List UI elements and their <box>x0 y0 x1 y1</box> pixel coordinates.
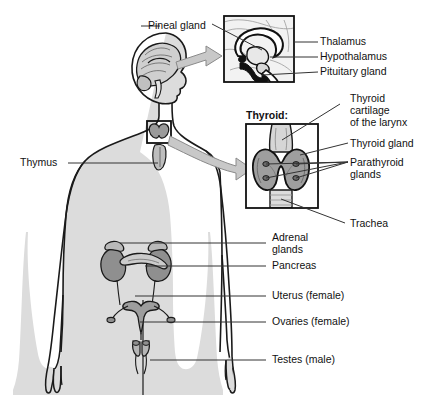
label-parathyroid-line2: glands <box>350 169 381 181</box>
label-thyroid-caption: Thyroid: <box>246 110 288 122</box>
label-pituitary-gland: Pituitary gland <box>320 66 387 78</box>
thymus-organ <box>153 144 166 170</box>
label-thalamus: Thalamus <box>320 36 366 48</box>
label-parathyroid-line1: Parathyroid <box>350 157 404 169</box>
body-silhouette <box>13 33 235 395</box>
label-hypothalamus: Hypothalamus <box>320 51 387 63</box>
label-thymus: Thymus <box>20 157 57 169</box>
label-thyroid-cartilage-line2: cartilage <box>350 105 390 117</box>
curved-block-arrow-icon <box>168 136 252 180</box>
thyroid-inset-box <box>246 124 318 208</box>
label-thyroid-gland: Thyroid gland <box>350 138 414 150</box>
label-ovaries: Ovaries (female) <box>272 316 350 328</box>
brain-inset-box <box>224 16 294 86</box>
endocrine-diagram-figure: Pineal gland Thalamus Hypothalamus Pitui… <box>0 0 432 395</box>
label-thyroid-cartilage-line3: of the larynx <box>350 117 407 129</box>
label-uterus: Uterus (female) <box>272 290 344 302</box>
label-adrenal-line1: Adrenal <box>272 232 308 244</box>
label-trachea: Trachea <box>350 218 388 230</box>
label-pineal-gland: Pineal gland <box>148 20 206 32</box>
label-pancreas: Pancreas <box>272 260 316 272</box>
label-adrenal-line2: glands <box>272 244 303 256</box>
label-testes: Testes (male) <box>272 354 335 366</box>
label-thyroid-cartilage-line1: Thyroid <box>350 93 385 105</box>
